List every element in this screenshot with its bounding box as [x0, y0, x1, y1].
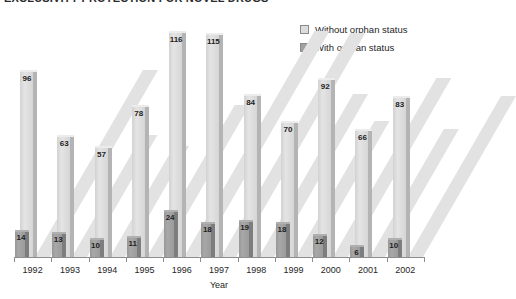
bar-value-label-with-orphan-status: 12 [313, 237, 325, 246]
bar-value-label-without-orphan-status: 92 [318, 82, 332, 91]
x-axis-label: 1992 [14, 265, 51, 275]
bar-cap [20, 70, 37, 72]
bar-value-label-with-orphan-status: 10 [90, 241, 102, 250]
x-axis-tick [89, 257, 90, 262]
bar-value-label-without-orphan-status: 96 [20, 74, 34, 83]
x-axis-tick [51, 257, 52, 262]
bar-side [145, 105, 149, 257]
bar-cap [132, 105, 149, 107]
x-axis-label: 1993 [51, 265, 88, 275]
bar-cap [95, 146, 112, 148]
x-axis-tick [200, 257, 201, 262]
x-axis-tick [238, 257, 239, 262]
x-axis-tick [312, 257, 313, 262]
x-axis-tick [126, 257, 127, 262]
bar-value-label-without-orphan-status: 70 [281, 125, 295, 134]
x-axis-label: 1998 [238, 265, 275, 275]
x-axis-label: 1999 [275, 265, 312, 275]
bar-cap [90, 238, 104, 240]
bar-cap [355, 129, 372, 131]
bar-value-label-without-orphan-status: 66 [355, 133, 369, 142]
bar-cap [15, 230, 29, 232]
bar-cap [244, 94, 261, 96]
bar-value-label-without-orphan-status: 83 [393, 100, 407, 109]
bar-cap [313, 234, 327, 236]
bar-side [406, 96, 410, 257]
bar-face [20, 70, 33, 257]
bar-cap [201, 222, 215, 224]
page-title: EXCLUSIVITY PROTECTION FOR NOVEL DRUGS [4, 0, 304, 4]
bar-cap [127, 236, 141, 238]
bar-value-label-without-orphan-status: 63 [57, 139, 71, 148]
bar-cap [164, 210, 178, 212]
bar-side [331, 78, 335, 257]
x-axis-tick [163, 257, 164, 262]
bar-value-label-without-orphan-status: 116 [169, 35, 183, 44]
x-axis-label: 1997 [200, 265, 237, 275]
bar-value-label-with-orphan-status: 18 [276, 225, 288, 234]
bar-side [294, 121, 298, 257]
x-axis-label: 2000 [312, 265, 349, 275]
bar-without-orphan-status [132, 105, 149, 257]
bar-without-orphan-status [355, 129, 372, 257]
bar-cap [350, 245, 364, 247]
bar-without-orphan-status [318, 78, 335, 257]
bar-side [182, 31, 186, 257]
bar-value-label-with-orphan-status: 14 [15, 233, 27, 242]
x-axis-tick [14, 257, 15, 262]
bar-cap [318, 78, 335, 80]
x-axis-label: 2002 [387, 265, 424, 275]
bar-cap [52, 232, 66, 234]
bar-value-label-without-orphan-status: 57 [95, 150, 109, 159]
x-axis-tick [275, 257, 276, 262]
bar-value-label-with-orphan-status: 24 [164, 213, 176, 222]
bar-value-label-with-orphan-status: 10 [388, 241, 400, 250]
x-axis-tick [387, 257, 388, 262]
bar-cap [239, 220, 253, 222]
bar-cap [393, 96, 410, 98]
bar-side [219, 33, 223, 257]
bar-without-orphan-status [20, 70, 37, 257]
x-axis-line [14, 257, 424, 258]
bar-value-label-with-orphan-status: 19 [239, 223, 251, 232]
bar-value-label-with-orphan-status: 18 [201, 225, 213, 234]
bar-side [33, 70, 37, 257]
x-axis-tick [424, 257, 425, 262]
x-axis-label: 1996 [163, 265, 200, 275]
bar-cap [388, 238, 402, 240]
x-axis-label: 1994 [89, 265, 126, 275]
bar-cap [57, 135, 74, 137]
bar-face [318, 78, 331, 257]
bar-value-label-with-orphan-status: 13 [52, 235, 64, 244]
bar-face [355, 129, 368, 257]
bar-side [368, 129, 372, 257]
x-axis-tick [349, 257, 350, 262]
bar-cap [206, 33, 223, 35]
x-axis-title: Year [0, 280, 438, 290]
bar-side [108, 146, 112, 257]
bar-value-label-without-orphan-status: 84 [244, 98, 258, 107]
bar-value-label-with-orphan-status: 6 [350, 248, 362, 257]
x-axis-label: 1995 [126, 265, 163, 275]
bar-value-label-with-orphan-status: 11 [127, 239, 139, 248]
bar-without-orphan-status [393, 96, 410, 257]
bar-face [132, 105, 145, 257]
bar-side [70, 135, 74, 257]
bar-side [257, 94, 261, 257]
bar-face [393, 96, 406, 257]
bar-cap [281, 121, 298, 123]
plot-area: 9614631357107811116241151884197018921266… [14, 14, 424, 257]
x-axis-label: 2001 [349, 265, 386, 275]
bar-value-label-without-orphan-status: 115 [206, 37, 220, 46]
bar-cap [276, 222, 290, 224]
bar-cap [169, 31, 186, 33]
bar-value-label-without-orphan-status: 78 [132, 109, 146, 118]
